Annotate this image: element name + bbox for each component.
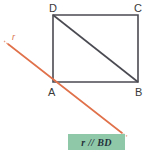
parallel-caption-highlight: r // BD xyxy=(68,134,125,150)
parallel-caption-text: r // BD xyxy=(81,137,111,148)
vertex-label-a: A xyxy=(48,87,55,98)
parallel-line-r xyxy=(8,44,122,133)
vertex-label-c: C xyxy=(134,3,142,14)
vertex-label-d: D xyxy=(49,3,57,14)
vertex-label-b: B xyxy=(135,87,142,98)
line-label-r: r xyxy=(12,33,15,42)
diagonal-db xyxy=(53,15,138,82)
geometry-figure xyxy=(0,0,154,154)
diagram-canvas: D C A B r r // BD xyxy=(0,0,154,154)
